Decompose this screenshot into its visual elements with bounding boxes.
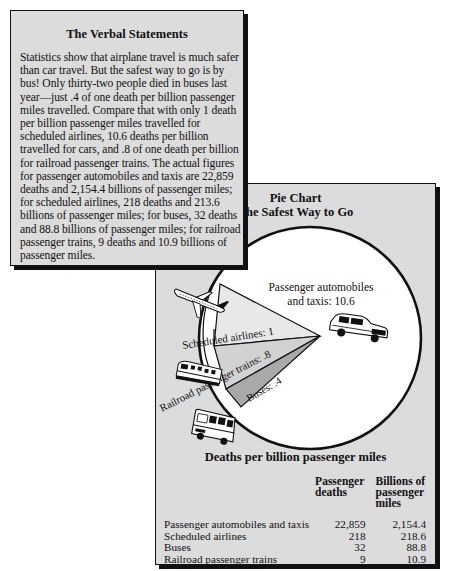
cell-miles: 2,154.4 — [366, 519, 426, 531]
header-passenger-deaths: Passenger deaths — [309, 476, 365, 519]
cell-miles: 88.8 — [366, 542, 426, 554]
table-row: Buses 32 88.8 — [164, 542, 426, 554]
cell-category: Passenger automobiles and taxis — [164, 519, 309, 531]
cell-deaths: 9 — [309, 554, 365, 566]
header-billions-passenger-miles: Billions of passenger miles — [366, 476, 426, 519]
table-row: Railroad passenger trains 9 10.9 — [164, 554, 426, 566]
table-row: Passenger automobiles and taxis 22,859 2… — [164, 519, 426, 531]
cell-deaths: 22,859 — [309, 519, 365, 531]
cell-category: Buses — [164, 542, 309, 554]
table-header-row: Passenger deaths Billions of passenger m… — [164, 476, 426, 519]
table-row: Scheduled airlines 218 218.6 — [164, 531, 426, 543]
cell-miles: 10.9 — [366, 554, 426, 566]
verbal-statements-title: The Verbal Statements — [11, 27, 243, 41]
verbal-statements-panel: The Verbal Statements Statistics show th… — [10, 10, 244, 266]
cell-category: Railroad passenger trains — [164, 554, 309, 566]
label-cars-line2: and taxis: 10.6 — [287, 295, 355, 307]
header-deaths-line2: deaths — [315, 487, 365, 498]
header-category — [164, 476, 309, 519]
verbal-statements-text: Statistics show that airplane travel is … — [20, 51, 246, 262]
header-miles-line3: miles — [376, 498, 426, 509]
label-cars-line1: Passenger automobiles — [268, 281, 374, 294]
data-table: Passenger deaths Billions of passenger m… — [164, 476, 426, 565]
cell-deaths: 32 — [309, 542, 365, 554]
chart-caption: Deaths per billion passenger miles — [156, 450, 435, 465]
